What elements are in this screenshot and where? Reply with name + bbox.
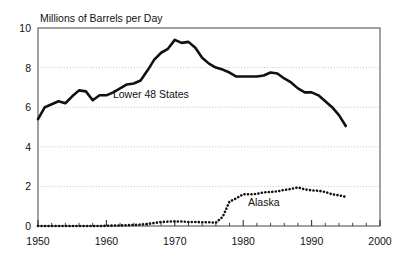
y-tick-label-4: 4 [25, 141, 31, 153]
x-tick-label-1990: 1990 [300, 235, 324, 247]
y-tick-label-10: 10 [19, 22, 31, 34]
annotation-lower-48-states: Lower 48 States [113, 88, 189, 100]
oil-production-line-chart: 0246810 195019601970198019902000 Lower 4… [0, 0, 397, 262]
x-tick-label-1980: 1980 [232, 235, 256, 247]
x-tick-label-1960: 1960 [95, 235, 119, 247]
y-tick-label-0: 0 [25, 220, 31, 232]
annotation-alaska: Alaska [248, 196, 280, 208]
chart-title: Millions of Barrels per Day [40, 12, 163, 24]
x-tick-label-1950: 1950 [26, 235, 50, 247]
y-tick-label-2: 2 [25, 180, 31, 192]
x-tick-label-1970: 1970 [163, 235, 187, 247]
chart-container: 0246810 195019601970198019902000 Lower 4… [0, 0, 397, 262]
x-tick-label-2000: 2000 [368, 235, 392, 247]
y-tick-label-6: 6 [25, 101, 31, 113]
y-tick-label-8: 8 [25, 62, 31, 74]
